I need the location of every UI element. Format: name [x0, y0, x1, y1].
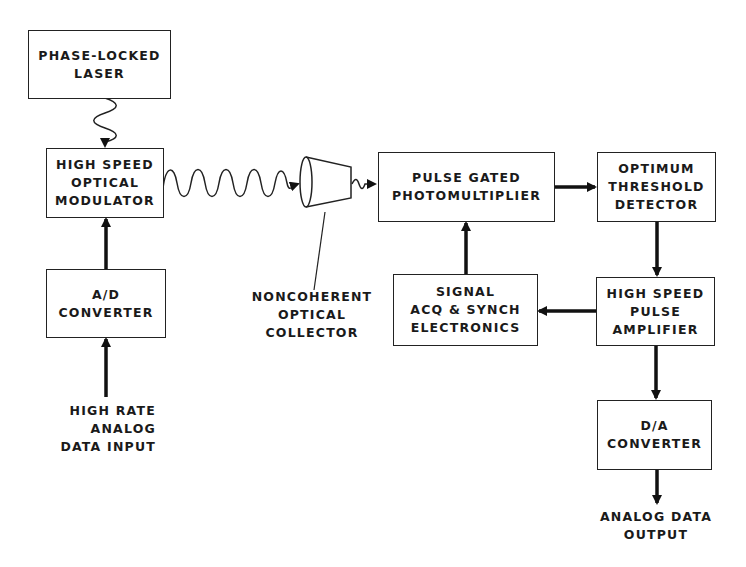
label-line: ANALOG DATA	[594, 508, 718, 526]
block-label: SIGNAL	[436, 283, 495, 301]
da-converter-block: D/A CONVERTER	[597, 400, 712, 470]
block-label: D/A	[640, 417, 668, 435]
label-line: ANALOG	[52, 420, 156, 438]
block-label: CONVERTER	[58, 304, 153, 322]
block-label: MODULATOR	[55, 192, 155, 210]
label-line: HIGH RATE	[52, 402, 156, 420]
block-label: ACQ & SYNCH	[410, 301, 520, 319]
collector-label: NONCOHERENT OPTICAL COLLECTOR	[248, 288, 376, 342]
block-label: PULSE	[630, 303, 681, 321]
collector-to-photomultiplier-beam	[352, 180, 375, 189]
collector-pointer-line	[314, 212, 325, 290]
input-label: HIGH RATE ANALOG DATA INPUT	[52, 402, 156, 456]
photomultiplier-block: PULSE GATED PHOTOMULTIPLIER	[378, 152, 555, 222]
output-label: ANALOG DATA OUTPUT	[594, 508, 718, 544]
block-label: AMPLIFIER	[612, 321, 698, 339]
laser-to-modulator-beam	[94, 98, 117, 146]
modulator-to-collector-beam	[163, 170, 298, 197]
ad-converter-block: A/D CONVERTER	[46, 269, 166, 338]
label-line: NONCOHERENT	[248, 288, 376, 306]
optical-collector-icon	[300, 157, 351, 207]
block-label: OPTICAL	[71, 174, 139, 192]
block-label: HIGH SPEED	[607, 285, 705, 303]
block-label: PHASE-LOCKED	[38, 47, 160, 65]
label-line: DATA INPUT	[52, 438, 156, 456]
block-label: THRESHOLD	[608, 178, 704, 196]
block-label: LASER	[74, 65, 125, 83]
pulse-amplifier-block: HIGH SPEED PULSE AMPLIFIER	[596, 277, 715, 346]
block-label: CONVERTER	[607, 435, 702, 453]
block-label: PHOTOMULTIPLIER	[392, 187, 541, 205]
block-label: ELECTRONICS	[411, 319, 521, 337]
block-label: HIGH SPEED	[56, 156, 154, 174]
threshold-detector-block: OPTIMUM THRESHOLD DETECTOR	[597, 152, 716, 222]
signal-acq-block: SIGNAL ACQ & SYNCH ELECTRONICS	[393, 274, 538, 346]
block-label: A/D	[92, 286, 120, 304]
block-label: PULSE GATED	[412, 169, 521, 187]
label-line: OUTPUT	[594, 526, 718, 544]
label-line: OPTICAL	[248, 306, 376, 324]
block-label: OPTIMUM	[618, 160, 694, 178]
label-line: COLLECTOR	[248, 324, 376, 342]
block-label: DETECTOR	[615, 196, 699, 214]
phase-locked-laser-block: PHASE-LOCKED LASER	[28, 30, 171, 99]
optical-modulator-block: HIGH SPEED OPTICAL MODULATOR	[46, 148, 164, 218]
